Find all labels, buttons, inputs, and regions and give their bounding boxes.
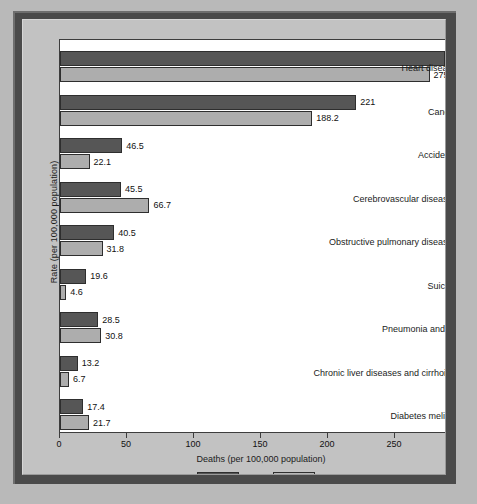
bar-male[interactable] [60, 95, 356, 110]
bar-male[interactable] [60, 51, 445, 66]
bar-value-label: 221 [356, 97, 375, 107]
bar-row: 221 [60, 95, 446, 110]
bar-group: 28.530.8Pneumonia and flu [60, 301, 446, 345]
x-axis-tick-label: 50 [121, 439, 131, 449]
category-label: Diabetes melitus [390, 411, 446, 421]
bar-group: 221188.2Cancer [60, 84, 446, 128]
bar-row: 4.6 [60, 285, 446, 300]
legend-item-male: Male [169, 472, 247, 475]
bar-male[interactable] [60, 182, 121, 197]
bar-group: 45.566.7Cerebrovascular diseases [60, 171, 446, 215]
bar-female[interactable] [60, 198, 149, 213]
bar-value-label: 45.5 [121, 184, 143, 194]
category-label: Heart disease [401, 63, 446, 73]
bar-row: 275.8 [60, 67, 446, 82]
bar-value-label: 4.6 [66, 287, 83, 297]
bar-value-label: 46.5 [122, 141, 144, 151]
bar-value-label: 17.4 [83, 402, 105, 412]
bar-value-label: 6.7 [69, 374, 86, 384]
bar-row: 287 [60, 51, 446, 66]
legend-swatch-male [197, 472, 239, 475]
bar-group: 13.26.7Chronic liver diseases and cirrho… [60, 345, 446, 389]
x-axis-tick-label: 150 [252, 439, 267, 449]
bar-male[interactable] [60, 269, 86, 284]
bar-female[interactable] [60, 154, 90, 169]
bar-male[interactable] [60, 138, 122, 153]
category-label: Accidents [418, 150, 446, 160]
x-axis-tick [327, 433, 328, 438]
bar-value-label: 40.5 [114, 228, 136, 238]
legend-item-female: Female [265, 472, 353, 475]
bar-female[interactable] [60, 372, 69, 387]
bar-row: 46.5 [60, 138, 446, 153]
x-axis-title: Deaths (per 100,000 population) [59, 454, 446, 464]
legend-label-male: Male [169, 474, 189, 475]
bar-male[interactable] [60, 399, 83, 414]
bar-group: 40.531.8Obstructive pulmonary diseases [60, 214, 446, 258]
plot-area: 287275.8Heart disease221188.2Cancer46.52… [59, 39, 446, 433]
bar-value-label: 19.6 [86, 271, 108, 281]
bar-group: 19.64.6Suicide [60, 258, 446, 302]
x-axis-tick-label: 0 [56, 439, 61, 449]
category-label: Chronic liver diseases and cirrhoisis [313, 368, 446, 378]
figure-outer-frame: Rate (per 100,000 population) 287275.8He… [13, 11, 456, 484]
bar-value-label: 28.5 [98, 315, 120, 325]
bar-male[interactable] [60, 312, 98, 327]
chart-legend: Male Female [59, 472, 446, 475]
x-axis-tick-label: 100 [185, 439, 200, 449]
bar-female[interactable] [60, 111, 312, 126]
bar-value-label: 13.2 [78, 358, 100, 368]
category-label: Cerebrovascular diseases [353, 194, 446, 204]
bar-row: 188.2 [60, 111, 446, 126]
bar-group: 17.421.7Diabetes melitus [60, 388, 446, 432]
bar-value-label: 287 [445, 54, 446, 64]
bar-value-label: 30.8 [101, 331, 123, 341]
bar-male[interactable] [60, 356, 78, 371]
legend-label-female: Female [323, 474, 353, 475]
bar-female[interactable] [60, 241, 103, 256]
category-label: Suicide [427, 281, 446, 291]
category-label: Pneumonia and flu [382, 324, 446, 334]
bar-row: 22.1 [60, 154, 446, 169]
bar-female[interactable] [60, 67, 430, 82]
x-axis-tick-label: 200 [319, 439, 334, 449]
category-label: Cancer [428, 107, 446, 117]
bar-group: 287275.8Heart disease [60, 40, 446, 84]
x-axis-tick [193, 433, 194, 438]
x-axis-tick [394, 433, 395, 438]
bar-value-label: 66.7 [149, 200, 171, 210]
bar-value-label: 21.7 [89, 418, 111, 428]
category-label: Obstructive pulmonary diseases [329, 237, 446, 247]
x-axis-tick-label: 250 [386, 439, 401, 449]
figure-background: Rate (per 100,000 population) 287275.8He… [22, 19, 446, 475]
bar-female[interactable] [60, 328, 101, 343]
bar-value-label: 188.2 [312, 113, 339, 123]
bar-female[interactable] [60, 415, 89, 430]
bar-male[interactable] [60, 225, 114, 240]
bar-row: 19.6 [60, 269, 446, 284]
bar-row: 17.4 [60, 399, 446, 414]
y-axis-title: Rate (per 100,000 population) [49, 137, 59, 307]
bar-value-label: 31.8 [103, 244, 125, 254]
x-axis-tick [59, 433, 60, 438]
x-axis-tick-labels: 050100150200250300 [59, 439, 446, 453]
legend-swatch-female [273, 472, 315, 475]
x-axis-tick [260, 433, 261, 438]
bar-value-label: 22.1 [90, 157, 112, 167]
bar-group: 46.522.1Accidents [60, 127, 446, 171]
bar-row: 21.7 [60, 415, 446, 430]
x-axis-tick [126, 433, 127, 438]
